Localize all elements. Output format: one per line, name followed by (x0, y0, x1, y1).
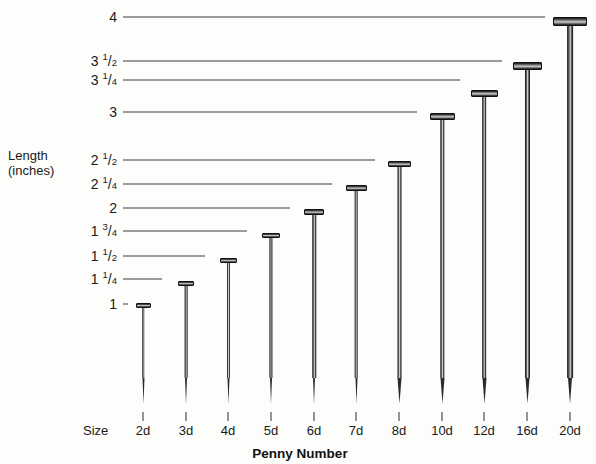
x-axis-tick-mark (143, 412, 144, 421)
gridline (123, 279, 162, 280)
nail-size-chart: Length (inches) 43 1/23 1/432 1/22 1/421… (0, 0, 596, 464)
nail-6d (304, 209, 324, 405)
y-axis-tick-label: 3 1/4 (91, 73, 117, 87)
gridline (123, 17, 545, 18)
x-axis-tick-label-6d: 6d (307, 424, 321, 437)
gridline (123, 207, 290, 208)
nail-shaft (397, 167, 401, 378)
y-axis-tick-label: 1 3/4 (91, 224, 117, 238)
x-axis-tick-mark (356, 412, 357, 421)
y-axis-tick-label: 4 (109, 10, 117, 24)
nail-tip (227, 378, 229, 404)
x-axis-tick-mark (527, 412, 528, 421)
x-axis-tick-label-2d: 2d (136, 424, 150, 437)
nail-tip (440, 378, 444, 404)
nail-tip (482, 378, 486, 404)
nail-tip (185, 378, 187, 404)
nail-3d (178, 281, 194, 405)
x-axis-tick-label-10d: 10d (431, 424, 453, 437)
y-axis-tick-label: 3 1/2 (91, 54, 117, 68)
y-axis-tick-label: 2 1/2 (91, 153, 117, 167)
nail-head (471, 90, 498, 97)
gridline (123, 183, 332, 184)
gridline (123, 231, 247, 232)
nail-tip (270, 378, 272, 404)
nail-shaft (440, 120, 444, 378)
x-axis-tick-label-3d: 3d (179, 424, 193, 437)
x-axis-tick-mark (314, 412, 315, 421)
x-axis-tick-mark (570, 412, 571, 421)
nail-head (513, 62, 542, 70)
gridline (123, 256, 205, 257)
y-axis-tick-label: 1 1/4 (91, 272, 117, 286)
nail-tip (397, 378, 401, 404)
nail-tip (142, 378, 144, 404)
nail-10d (430, 113, 455, 404)
nail-shaft (142, 308, 145, 378)
x-axis-tick-mark (186, 412, 187, 421)
gridline (123, 111, 417, 112)
nail-tip (568, 378, 572, 404)
nail-shaft (354, 191, 358, 378)
gridline (123, 304, 128, 305)
nail-8d (388, 161, 411, 405)
nail-shaft (312, 215, 316, 379)
nail-shaft (525, 70, 530, 378)
nail-head (553, 17, 587, 26)
nail-tip (313, 378, 315, 404)
gridline (123, 160, 375, 161)
y-axis-title-line-1: Length (8, 148, 54, 163)
nail-tip (355, 378, 357, 404)
gridline (123, 61, 502, 62)
y-axis-tick-label: 1 1/2 (91, 249, 117, 263)
nail-12d (471, 90, 498, 404)
x-axis-tick-mark (228, 412, 229, 421)
y-axis-tick-label: 1 (109, 297, 117, 311)
nail-2d (136, 303, 151, 404)
x-axis-tick-label-20d: 20d (559, 424, 581, 437)
x-axis-tick-label-5d: 5d (264, 424, 278, 437)
y-axis-tick-label: 2 1/4 (91, 177, 117, 191)
x-axis-tick-mark (442, 412, 443, 421)
size-row-label: Size (83, 424, 108, 437)
x-axis-tick-mark (399, 412, 400, 421)
nail-head (430, 113, 455, 120)
x-axis-tick-mark (271, 412, 272, 421)
x-axis-tick-label-16d: 16d (516, 424, 538, 437)
x-axis-tick-label-7d: 7d (349, 424, 363, 437)
y-axis-tick-label: 2 (109, 201, 117, 215)
nail-4d (220, 258, 237, 405)
nail-tip (525, 378, 529, 404)
nail-shaft (269, 238, 272, 378)
x-axis-tick-label-8d: 8d (392, 424, 406, 437)
x-axis-tick-mark (484, 412, 485, 421)
nail-7d (346, 185, 367, 405)
y-axis-title-line-2: (inches) (8, 163, 54, 178)
y-axis-tick-label: 3 (109, 105, 117, 119)
gridline (123, 79, 460, 80)
y-axis-title: Length (inches) (8, 148, 54, 178)
nail-head (388, 161, 411, 168)
x-axis-title: Penny Number (252, 447, 347, 461)
nail-shaft (185, 286, 188, 378)
nail-5d (262, 233, 280, 405)
x-axis-tick-label-12d: 12d (473, 424, 495, 437)
nail-shaft (482, 97, 487, 378)
nail-20d (553, 17, 587, 404)
nail-16d (513, 62, 542, 404)
nail-shaft (567, 26, 573, 378)
x-axis-tick-label-4d: 4d (221, 424, 235, 437)
nail-shaft (227, 263, 230, 378)
